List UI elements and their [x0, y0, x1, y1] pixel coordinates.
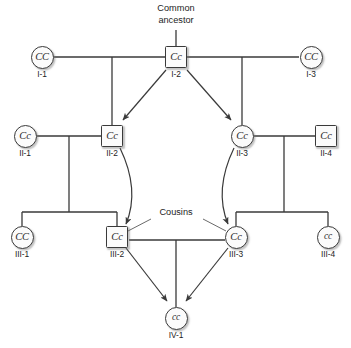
symbol-circle-female: cc: [317, 226, 340, 249]
symbol-circle-female: CC: [31, 46, 54, 69]
allele-arrow-I2-to-II3: [187, 70, 231, 120]
individual-id-label: II-2: [106, 148, 118, 158]
allele-arrow-III3-to-IV1: [186, 248, 228, 301]
individual-id-label: III-2: [110, 249, 124, 259]
leader-line-cousins-left: [128, 219, 151, 231]
genotype-label: Cc: [111, 232, 122, 243]
symbol-circle-female: CC: [300, 46, 323, 69]
symbol-square-male: Cc: [165, 46, 187, 68]
individual-id-label: I-1: [37, 69, 46, 79]
genotype-label: CC: [15, 232, 29, 243]
genotype-label: cc: [172, 313, 180, 323]
individual-id-label: III-4: [321, 249, 335, 259]
allele-arrow-I2-to-II2: [123, 70, 166, 120]
individual-id-label: II-3: [236, 148, 248, 158]
allele-arrow-III2-to-IV1: [126, 248, 167, 301]
genotype-label: CC: [35, 52, 49, 63]
individual-id-label: II-1: [19, 148, 31, 158]
individual-id-label: IV-1: [169, 330, 184, 340]
individual-id-label: I-2: [171, 69, 180, 79]
label-common-ancestor-line1: Common: [157, 3, 194, 15]
symbol-square-male: Cc: [101, 125, 123, 147]
allele-arrow-II2-to-III2: [120, 148, 132, 224]
label-cousins: Cousins: [159, 207, 192, 219]
label-common-ancestor: Common ancestor: [157, 3, 194, 26]
symbol-circle-female: Cc: [225, 226, 248, 249]
symbol-square-male: Cc: [106, 226, 128, 248]
genotype-label: Cc: [106, 131, 117, 142]
individual-id-label: III-1: [15, 249, 29, 259]
symbol-circle-female: Cc: [231, 125, 254, 148]
genotype-label: Cc: [236, 131, 247, 142]
genotype-label: Cc: [320, 131, 331, 142]
symbol-circle-female: Cc: [14, 125, 37, 148]
genotype-label: Cc: [170, 52, 181, 63]
pedigree-diagram: Common ancestor Cousins CC I-1 Cc I-2 CC…: [0, 0, 351, 348]
genotype-label: Cc: [230, 232, 241, 243]
leader-line-cousins-right: [203, 219, 226, 231]
genotype-label: Cc: [19, 131, 30, 142]
label-common-ancestor-line2: ancestor: [157, 15, 194, 27]
individual-id-label: II-4: [320, 148, 332, 158]
genotype-label: cc: [324, 232, 332, 242]
symbol-circle-female: cc: [165, 307, 188, 330]
individual-id-label: I-3: [306, 69, 315, 79]
individual-id-label: III-3: [229, 249, 243, 259]
symbol-circle-female: CC: [11, 226, 34, 249]
genotype-label: CC: [304, 52, 318, 63]
allele-arrow-II3-to-III3: [222, 148, 234, 224]
symbol-square-male: Cc: [315, 125, 337, 147]
